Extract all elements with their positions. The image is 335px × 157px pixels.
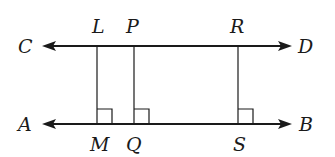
label-b: B bbox=[298, 113, 313, 135]
label-r: R bbox=[229, 15, 244, 37]
line-ab bbox=[42, 119, 292, 129]
label-q: Q bbox=[126, 133, 142, 155]
label-a: A bbox=[16, 113, 32, 135]
right-angle-marker-icon bbox=[134, 109, 149, 124]
right-angle-marker-icon bbox=[238, 109, 253, 124]
label-c: C bbox=[18, 35, 33, 57]
geometry-diagram: C D A B L P R M Q S bbox=[0, 0, 335, 157]
label-d: D bbox=[297, 35, 313, 57]
label-p: P bbox=[125, 15, 140, 37]
right-angle-marker-icon bbox=[97, 109, 112, 124]
segment-lm bbox=[97, 46, 112, 124]
label-s: S bbox=[233, 133, 246, 155]
label-m: M bbox=[89, 133, 110, 155]
line-cd bbox=[42, 41, 292, 51]
segment-pq bbox=[134, 46, 149, 124]
segment-rs bbox=[238, 46, 253, 124]
label-l: L bbox=[91, 15, 105, 37]
